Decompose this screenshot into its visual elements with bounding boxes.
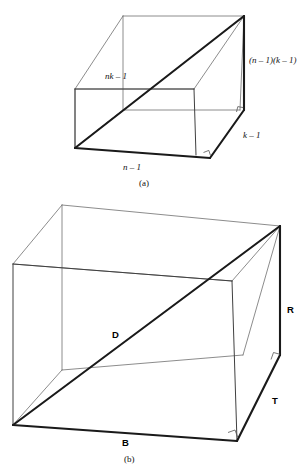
label-a-right-face: (n – 1)(k – 1) — [249, 56, 296, 65]
cuboid-b-space-diagonal — [13, 226, 280, 425]
cuboid-b — [13, 205, 280, 441]
cuboid-a-bottom-front-edge — [75, 148, 210, 158]
label-b-width: B — [122, 438, 129, 448]
label-b-depth: T — [272, 396, 278, 406]
label-a-diagonal-text: nk – 1 — [105, 71, 127, 81]
cuboid-b-back-top-rear — [62, 205, 280, 226]
cuboid-b-front-top — [13, 264, 232, 281]
cuboid-b-front-right-vert — [232, 281, 237, 441]
cuboid-b-right-angle-marker-bottom — [228, 430, 238, 437]
label-b-width-text: B — [122, 437, 129, 448]
caption-a-text: (a) — [139, 178, 149, 188]
caption-a: (a) — [139, 179, 149, 188]
label-b-right-face-text: R — [287, 304, 294, 315]
label-b-right-face: R — [287, 305, 294, 315]
cuboid-diagram-svg — [0, 0, 308, 475]
cuboid-a-front-right-vert — [194, 89, 196, 155]
cuboid-a-right-depth-edge — [210, 110, 244, 158]
caption-b-text: (b) — [124, 454, 135, 464]
label-a-right-face-text: (n – 1)(k – 1) — [249, 55, 296, 65]
label-a-diagonal: nk – 1 — [105, 72, 127, 81]
label-a-width-text: n – 1 — [123, 162, 141, 172]
label-a-width: n – 1 — [123, 163, 141, 172]
figure-container: nk – 1 (n – 1)(k – 1) k – 1 n – 1 (a) D … — [0, 0, 308, 475]
cuboid-b-ceiling-right — [232, 226, 280, 281]
cuboid-a-right-angle-marker-bottom — [204, 150, 211, 155]
cuboid-b-rear-bottom — [13, 370, 62, 425]
cuboid-a-space-diagonal — [75, 16, 244, 148]
cuboid-b-floor-right — [243, 226, 280, 355]
page-body-text-cutoff — [4, 469, 304, 475]
caption-b: (b) — [124, 455, 135, 464]
label-b-diagonal: D — [112, 330, 119, 340]
cuboid-a — [75, 16, 244, 158]
cuboid-b-back-top-edge — [13, 205, 62, 264]
cuboid-a-ceiling-right — [194, 16, 244, 89]
label-a-depth: k – 1 — [243, 131, 261, 140]
label-b-diagonal-text: D — [112, 329, 119, 340]
label-b-depth-text: T — [272, 395, 278, 406]
label-a-depth-text: k – 1 — [243, 130, 261, 140]
